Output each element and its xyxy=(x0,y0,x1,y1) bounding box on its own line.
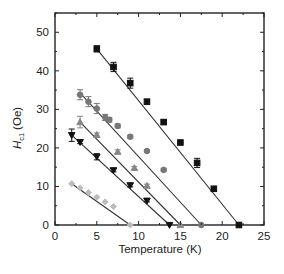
y-axis-title-sub: c1 xyxy=(17,133,26,141)
y-tick-label: 20 xyxy=(36,142,49,154)
marker-circles xyxy=(86,99,92,105)
marker-circles xyxy=(77,92,83,98)
x-axis-ticks: 0510152025 xyxy=(52,13,271,242)
marker-circles xyxy=(144,148,150,154)
y-tick-label: 30 xyxy=(36,103,49,115)
marker-diamonds xyxy=(77,185,83,191)
x-tick-label: 0 xyxy=(52,230,58,242)
data-markers xyxy=(68,46,241,228)
marker-up-triangles xyxy=(77,119,84,125)
y-tick-label: 50 xyxy=(36,26,49,38)
marker-up-triangles xyxy=(131,165,138,171)
marker-circles xyxy=(107,117,113,123)
marker-squares xyxy=(161,119,167,125)
x-tick-label: 10 xyxy=(132,230,145,242)
x-axis-title: Temperature (K) xyxy=(118,243,201,255)
fit-line-squares xyxy=(97,49,239,225)
marker-squares xyxy=(111,64,117,70)
marker-down-triangles xyxy=(144,198,151,204)
marker-down-triangles xyxy=(94,154,101,160)
marker-squares xyxy=(178,140,184,146)
y-axis-title: Hc1(Oe) xyxy=(11,107,26,149)
y-tick-label: 40 xyxy=(36,65,49,77)
marker-up-triangles xyxy=(144,182,151,188)
marker-squares xyxy=(236,222,242,228)
marker-squares xyxy=(94,46,100,52)
x-tick-label: 15 xyxy=(174,230,187,242)
x-tick-label: 20 xyxy=(216,230,229,242)
marker-squares xyxy=(211,186,217,192)
marker-squares xyxy=(194,160,200,166)
y-axis-title-unit: (Oe) xyxy=(11,107,23,130)
svg-text:Hc1(Oe): Hc1(Oe) xyxy=(11,107,26,149)
fit-line-down-triangles xyxy=(72,135,170,225)
marker-squares xyxy=(144,99,150,105)
marker-down-triangles xyxy=(110,168,117,174)
marker-squares xyxy=(127,80,133,86)
x-tick-label: 5 xyxy=(94,230,100,242)
y-tick-label: 10 xyxy=(36,180,49,192)
marker-diamonds xyxy=(102,199,108,205)
x-tick-label: 25 xyxy=(258,230,271,242)
marker-circles xyxy=(94,106,100,112)
marker-down-triangles xyxy=(127,183,134,189)
hc1-vs-temperature-chart: 0510152025 01020304050 Temperature (K) H… xyxy=(0,0,284,274)
marker-circles xyxy=(161,167,167,173)
marker-circles xyxy=(115,123,121,129)
marker-diamonds xyxy=(111,203,117,209)
marker-circles xyxy=(127,134,133,140)
y-tick-label: 0 xyxy=(43,219,49,231)
